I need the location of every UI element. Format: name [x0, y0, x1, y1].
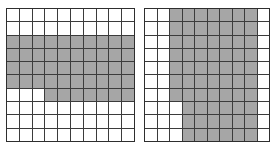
grid-cell-shaded[interactable]: [245, 115, 258, 128]
grid-cell-empty[interactable]: [145, 9, 158, 22]
grid-cell-shaded[interactable]: [70, 62, 83, 75]
grid-cell-shaded[interactable]: [122, 62, 135, 75]
grid-cell-shaded[interactable]: [232, 22, 245, 35]
grid-cell-shaded[interactable]: [182, 115, 195, 128]
grid-cell-shaded[interactable]: [83, 62, 96, 75]
grid-cell-empty[interactable]: [45, 115, 58, 128]
grid-cell-shaded[interactable]: [195, 115, 208, 128]
grid-cell-shaded[interactable]: [220, 48, 233, 61]
grid-cell-empty[interactable]: [122, 9, 135, 22]
grid-cell-shaded[interactable]: [7, 48, 20, 61]
grid-cell-shaded[interactable]: [232, 115, 245, 128]
grid-cell-shaded[interactable]: [245, 75, 258, 88]
grid-cell-shaded[interactable]: [182, 22, 195, 35]
grid-cell-shaded[interactable]: [207, 75, 220, 88]
grid-cell-shaded[interactable]: [7, 62, 20, 75]
grid-cell-shaded[interactable]: [58, 88, 71, 101]
grid-cell-shaded[interactable]: [232, 102, 245, 115]
grid-cell-empty[interactable]: [145, 48, 158, 61]
grid-cell-empty[interactable]: [170, 128, 183, 141]
grid-cell-shaded[interactable]: [195, 128, 208, 141]
grid-cell-empty[interactable]: [109, 128, 122, 141]
grid-cell-empty[interactable]: [109, 9, 122, 22]
grid-cell-empty[interactable]: [32, 128, 45, 141]
grid-cell-shaded[interactable]: [232, 62, 245, 75]
grid-cell-empty[interactable]: [19, 128, 32, 141]
grid-cell-shaded[interactable]: [232, 35, 245, 48]
grid-cell-shaded[interactable]: [220, 35, 233, 48]
grid-cell-shaded[interactable]: [96, 48, 109, 61]
grid-cell-shaded[interactable]: [182, 75, 195, 88]
grid-cell-empty[interactable]: [145, 102, 158, 115]
grid-cell-shaded[interactable]: [207, 22, 220, 35]
grid-cell-shaded[interactable]: [220, 88, 233, 101]
grid-cell-empty[interactable]: [109, 102, 122, 115]
grid-cell-shaded[interactable]: [32, 62, 45, 75]
grid-cell-shaded[interactable]: [7, 35, 20, 48]
grid-cell-shaded[interactable]: [245, 35, 258, 48]
grid-cell-shaded[interactable]: [195, 102, 208, 115]
grid-cell-shaded[interactable]: [170, 48, 183, 61]
grid-cell-empty[interactable]: [257, 115, 270, 128]
grid-cell-empty[interactable]: [19, 115, 32, 128]
grid-cell-shaded[interactable]: [220, 22, 233, 35]
grid-cell-empty[interactable]: [122, 128, 135, 141]
grid-cell-empty[interactable]: [96, 22, 109, 35]
grid-cell-empty[interactable]: [58, 9, 71, 22]
grid-cell-shaded[interactable]: [220, 9, 233, 22]
grid-cell-empty[interactable]: [257, 22, 270, 35]
grid-cell-empty[interactable]: [145, 88, 158, 101]
grid-cell-empty[interactable]: [45, 128, 58, 141]
grid-cell-shaded[interactable]: [207, 128, 220, 141]
grid-cell-shaded[interactable]: [220, 115, 233, 128]
grid-cell-shaded[interactable]: [19, 62, 32, 75]
grid-cell-empty[interactable]: [170, 115, 183, 128]
grid-cell-shaded[interactable]: [220, 102, 233, 115]
grid-cell-shaded[interactable]: [109, 62, 122, 75]
grid-cell-empty[interactable]: [257, 102, 270, 115]
grid-cell-shaded[interactable]: [45, 35, 58, 48]
grid-cell-empty[interactable]: [145, 22, 158, 35]
grid-cell-empty[interactable]: [157, 115, 170, 128]
grid-cell-shaded[interactable]: [170, 35, 183, 48]
grid-cell-shaded[interactable]: [245, 128, 258, 141]
grid-cell-empty[interactable]: [70, 115, 83, 128]
grid-cell-shaded[interactable]: [32, 75, 45, 88]
grid-cell-shaded[interactable]: [122, 88, 135, 101]
grid-cell-empty[interactable]: [83, 22, 96, 35]
grid-cell-empty[interactable]: [58, 22, 71, 35]
grid-cell-shaded[interactable]: [122, 48, 135, 61]
grid-cell-shaded[interactable]: [109, 48, 122, 61]
grid-cell-empty[interactable]: [157, 102, 170, 115]
grid-cell-empty[interactable]: [157, 22, 170, 35]
grid-cell-shaded[interactable]: [195, 22, 208, 35]
grid-cell-empty[interactable]: [96, 115, 109, 128]
grid-cell-shaded[interactable]: [232, 88, 245, 101]
grid-cell-shaded[interactable]: [32, 35, 45, 48]
grid-cell-shaded[interactable]: [122, 35, 135, 48]
grid-cell-shaded[interactable]: [182, 9, 195, 22]
grid-cell-shaded[interactable]: [232, 75, 245, 88]
grid-cell-shaded[interactable]: [182, 35, 195, 48]
grid-cell-shaded[interactable]: [58, 35, 71, 48]
grid-cell-shaded[interactable]: [83, 88, 96, 101]
grid-cell-shaded[interactable]: [96, 88, 109, 101]
grid-cell-shaded[interactable]: [170, 62, 183, 75]
grid-cell-empty[interactable]: [145, 128, 158, 141]
grid-cell-empty[interactable]: [257, 48, 270, 61]
grid-cell-shaded[interactable]: [70, 75, 83, 88]
grid-cell-empty[interactable]: [257, 128, 270, 141]
grid-cell-empty[interactable]: [257, 88, 270, 101]
grid-cell-empty[interactable]: [157, 48, 170, 61]
grid-cell-shaded[interactable]: [195, 9, 208, 22]
grid-cell-shaded[interactable]: [207, 115, 220, 128]
grid-cell-shaded[interactable]: [83, 48, 96, 61]
grid-cell-empty[interactable]: [32, 9, 45, 22]
grid-cell-empty[interactable]: [257, 62, 270, 75]
grid-cell-shaded[interactable]: [45, 75, 58, 88]
grid-cell-shaded[interactable]: [19, 75, 32, 88]
grid-cell-empty[interactable]: [58, 128, 71, 141]
grid-cell-shaded[interactable]: [195, 48, 208, 61]
grid-cell-empty[interactable]: [58, 115, 71, 128]
grid-cell-shaded[interactable]: [83, 35, 96, 48]
